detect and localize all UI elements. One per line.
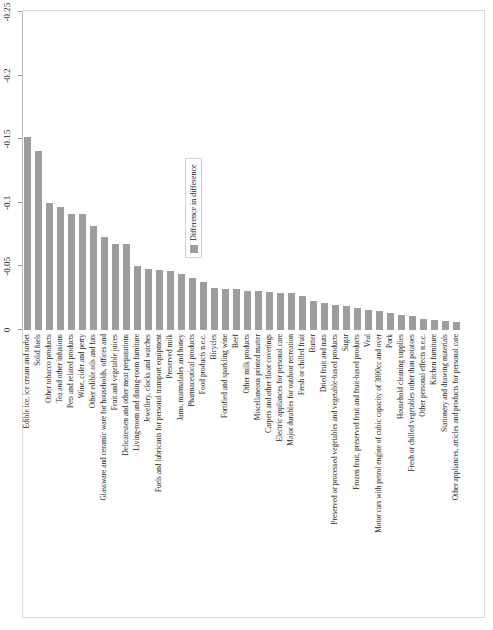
category-label: Frozen fruit, preserved fruit and fruit-…	[353, 334, 361, 490]
bar-row	[233, 12, 240, 330]
bar-row	[145, 12, 152, 330]
bar	[200, 282, 207, 330]
chart-legend: Difference in difference	[185, 158, 202, 258]
bar-row	[134, 12, 141, 330]
bar	[442, 321, 449, 330]
category-label: Delicatessen and other meat preparations	[122, 334, 130, 455]
legend-swatch-icon	[190, 245, 198, 253]
bar	[211, 288, 218, 330]
bar	[90, 226, 97, 330]
category-label: Other tobacco products	[45, 334, 53, 403]
category-label: Preserved or processed vegetables and ve…	[331, 334, 339, 524]
bar	[35, 151, 42, 330]
bar	[244, 291, 251, 330]
category-label: Wine, cider and perry	[78, 334, 86, 398]
bar-row	[310, 12, 317, 330]
bar-row	[90, 12, 97, 330]
bar-row	[35, 12, 42, 330]
chart-figure: Edible ice, ice cream and sorbetSolid fu…	[0, 0, 493, 630]
bar-row	[420, 12, 427, 330]
category-label: Fuels and lubricants for personal transp…	[155, 334, 163, 492]
bar	[101, 237, 108, 330]
category-label: Other personal effects n.e.c.	[419, 334, 427, 417]
bar-row	[211, 12, 218, 330]
bar-row	[321, 12, 328, 330]
bar	[376, 311, 383, 330]
bar-row	[431, 12, 438, 330]
bar-row	[387, 12, 394, 330]
axis-tick-label: -0.15	[2, 130, 12, 149]
axis-tick-label: -0.2	[2, 68, 12, 82]
bar	[167, 272, 174, 331]
axis-tick-label: -0.1	[2, 196, 12, 210]
axis-tick-label: -0.05	[2, 257, 12, 276]
bars-layer	[22, 12, 462, 330]
category-label: Food products n.e.c.	[199, 334, 207, 394]
bar	[68, 214, 75, 330]
bar	[255, 291, 262, 330]
category-axis-labels: Edible ice, ice cream and sorbetSolid fu…	[22, 332, 462, 616]
category-label: Fortified and sparkling wine	[221, 334, 229, 418]
bar-row	[24, 12, 31, 330]
category-label: Fresh or chilled fruit	[298, 334, 306, 395]
category-label: Glassware and ceramic ware for household…	[100, 334, 108, 501]
bar-row	[266, 12, 273, 330]
bar	[387, 313, 394, 330]
category-label: Other appliances, articles and products …	[452, 334, 460, 500]
category-label: Jewellery, clocks and watches	[144, 334, 152, 423]
bar-row	[255, 12, 262, 330]
category-label: Edible ice, ice cream and sorbet	[23, 334, 31, 428]
bar-row	[112, 12, 119, 330]
bar	[310, 301, 317, 330]
bar	[409, 316, 416, 330]
category-label: Bicycles	[210, 334, 218, 359]
bar	[277, 293, 284, 330]
category-label: Other edible oils and fats	[89, 334, 97, 408]
bar	[299, 296, 306, 330]
bar-row	[167, 12, 174, 330]
bar-row	[156, 12, 163, 330]
axis-tick-label: -0.25	[2, 3, 12, 22]
bar	[398, 315, 405, 330]
category-label: Kitchen furniture	[430, 334, 438, 385]
bar-row	[354, 12, 361, 330]
bar	[431, 320, 438, 330]
bar	[79, 214, 86, 330]
category-label: Other milk products	[243, 334, 251, 394]
category-label: Carpets and other floor coverings	[265, 334, 273, 433]
bar	[453, 322, 460, 330]
axis-tick-label: 0	[2, 328, 12, 333]
category-label: Electric appliances for personal care	[276, 334, 284, 442]
category-label: Stationery and drawing materials	[441, 334, 449, 432]
bar	[46, 203, 53, 330]
bar	[134, 266, 141, 330]
bar	[321, 303, 328, 330]
bar-row	[79, 12, 86, 330]
category-label: Household cleaning supplies	[397, 334, 405, 419]
legend-label: Difference in difference	[189, 164, 198, 241]
bar	[233, 289, 240, 330]
bar	[354, 308, 361, 330]
bar	[189, 278, 196, 330]
category-label: Motor cars with petrol engine of cubic c…	[375, 334, 383, 533]
bar	[343, 306, 350, 330]
bar-row	[442, 12, 449, 330]
bar-row	[277, 12, 284, 330]
bar-row	[376, 12, 383, 330]
bar	[222, 289, 229, 330]
bar-row	[288, 12, 295, 330]
bar-row	[68, 12, 75, 330]
category-label: Fruit and vegetable juices	[111, 334, 119, 410]
category-label: Tea and other infusions	[56, 334, 64, 403]
bar	[57, 207, 64, 330]
bar	[24, 137, 31, 330]
bar	[332, 305, 339, 330]
category-label: Living-room and dining-room furniture	[133, 334, 141, 451]
category-label: Pets and related products	[67, 334, 75, 408]
bar-row	[453, 12, 460, 330]
bar	[112, 244, 119, 330]
bar-row	[244, 12, 251, 330]
category-label: Sugar	[342, 334, 350, 351]
category-label: Pharmaceutical products	[188, 334, 196, 407]
bar	[156, 270, 163, 330]
